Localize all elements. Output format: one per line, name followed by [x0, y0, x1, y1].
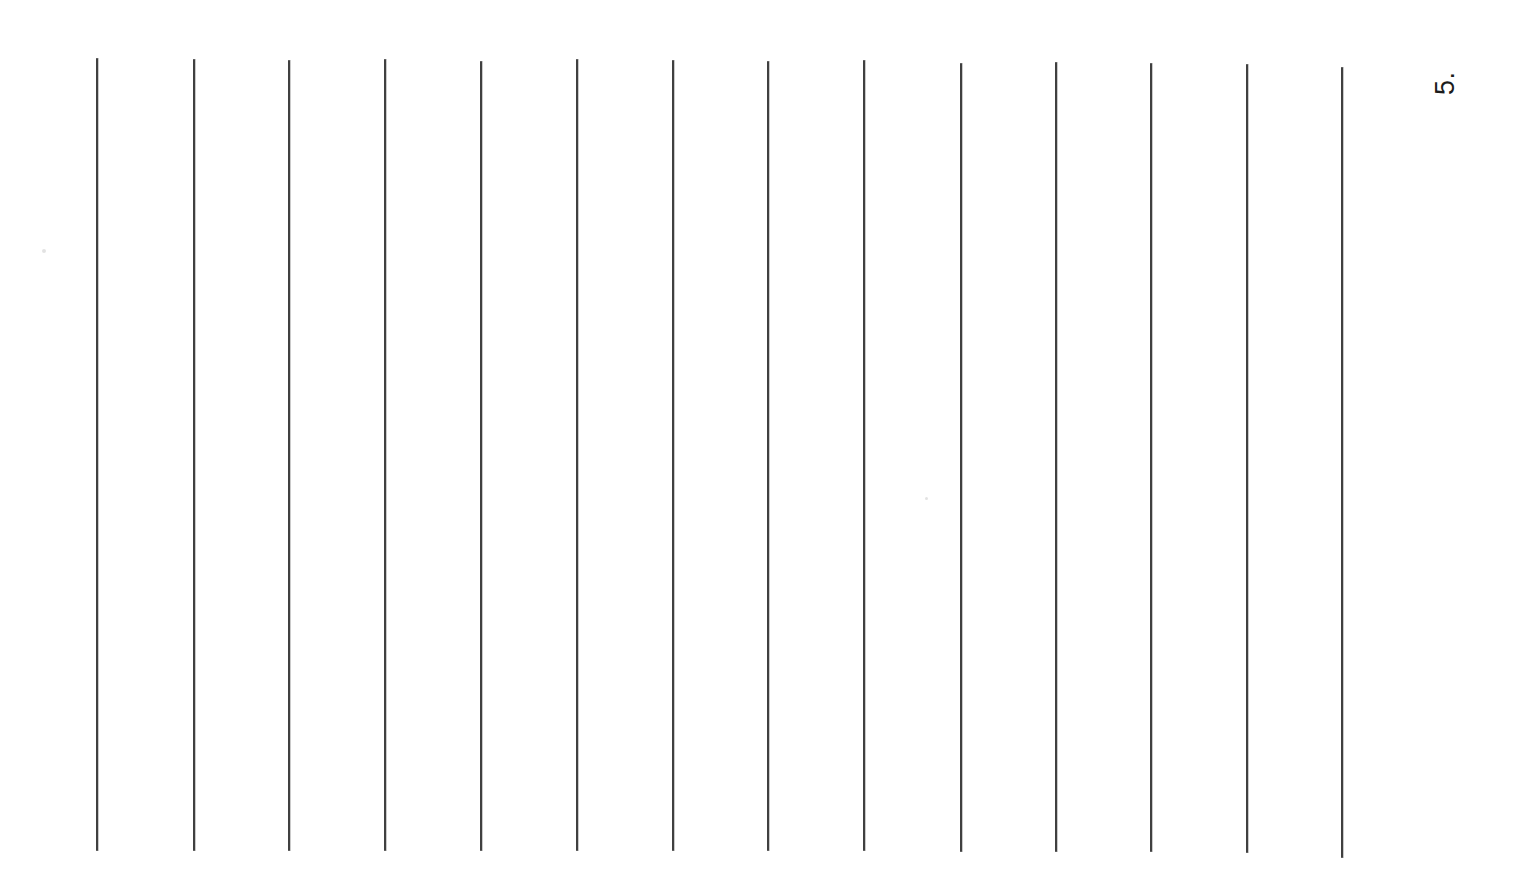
- ruling-line: [576, 59, 578, 851]
- ruling-line: [1150, 63, 1152, 852]
- ruling-line: [1055, 62, 1057, 852]
- ruling-line: [767, 61, 769, 851]
- ruling-line: [384, 59, 386, 851]
- ruling-line: [1341, 67, 1343, 858]
- ruling-line: [193, 59, 195, 851]
- scan-speck: [925, 497, 928, 500]
- ruling-line: [960, 63, 962, 852]
- ruling-line: [288, 60, 290, 851]
- ruling-line: [96, 58, 98, 851]
- scanned-page: 5.: [0, 0, 1515, 877]
- ruling-line: [672, 60, 674, 851]
- ruling-line: [480, 61, 482, 851]
- ruling-line: [863, 60, 865, 851]
- scan-speck: [42, 249, 46, 253]
- page-number: 5.: [1432, 71, 1459, 95]
- ruling-line: [1246, 64, 1248, 853]
